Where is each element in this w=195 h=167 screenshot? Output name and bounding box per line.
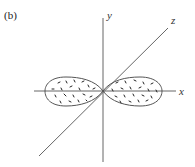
y-axis-label: y <box>106 9 112 21</box>
orbital-diagram: y z x <box>0 0 195 167</box>
z-axis-label: z <box>170 14 176 26</box>
x-axis-label: x <box>178 85 184 97</box>
